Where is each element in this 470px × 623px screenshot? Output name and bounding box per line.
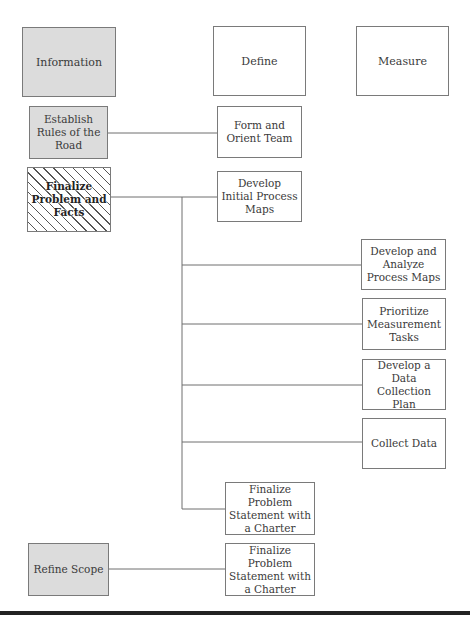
step-prioritize-tasks: Prioritize Measurement Tasks (362, 298, 446, 350)
column-header-measure: Measure (356, 26, 449, 96)
step-form-orient-team-label: Form and Orient Team (221, 119, 298, 145)
step-prioritize-tasks-label: Prioritize Measurement Tasks (366, 305, 442, 344)
process-flow-diagram: Information Define Measure Establish Rul… (0, 0, 470, 623)
column-header-define-label: Define (241, 55, 277, 68)
step-finalize-statement-1: Finalize Problem Statement with a Charte… (225, 482, 315, 535)
column-header-measure-label: Measure (378, 55, 427, 68)
step-finalize-problem-facts-label: Finalize Problem and Facts (31, 180, 107, 219)
bottom-divider (0, 611, 470, 615)
step-develop-initial-maps-label: Develop Initial Process Maps (221, 177, 298, 216)
step-finalize-statement-2: Finalize Problem Statement with a Charte… (225, 543, 315, 596)
column-header-define: Define (213, 26, 306, 96)
step-data-collection-plan: Develop a Data Collection Plan (362, 359, 446, 410)
step-refine-scope-label: Refine Scope (34, 563, 104, 576)
step-finalize-statement-2-label: Finalize Problem Statement with a Charte… (229, 544, 311, 596)
step-finalize-problem-facts: Finalize Problem and Facts (27, 167, 111, 232)
step-collect-data-label: Collect Data (371, 437, 437, 450)
step-establish-rules-label: Establish Rules of the Road (33, 113, 104, 152)
step-establish-rules: Establish Rules of the Road (29, 106, 108, 159)
column-header-information: Information (22, 27, 116, 97)
step-develop-analyze-maps-label: Develop and Analyze Process Maps (365, 245, 442, 284)
step-data-collection-plan-label: Develop a Data Collection Plan (366, 359, 442, 411)
step-refine-scope: Refine Scope (28, 543, 109, 596)
column-header-information-label: Information (36, 56, 102, 69)
step-develop-analyze-maps: Develop and Analyze Process Maps (361, 239, 446, 290)
step-finalize-statement-1-label: Finalize Problem Statement with a Charte… (229, 483, 311, 535)
step-develop-initial-maps: Develop Initial Process Maps (217, 171, 302, 222)
step-collect-data: Collect Data (362, 418, 446, 469)
step-form-orient-team: Form and Orient Team (217, 106, 302, 158)
